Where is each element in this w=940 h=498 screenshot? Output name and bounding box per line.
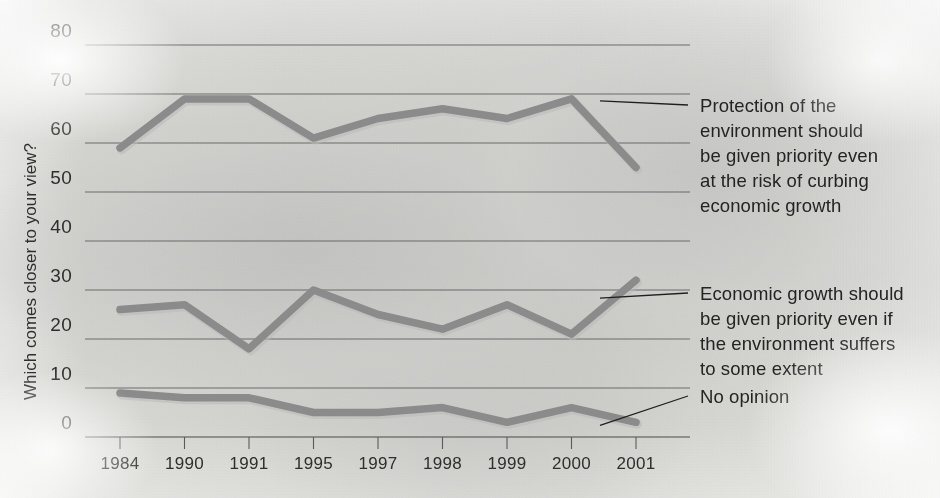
- y-tick-label-80: 80: [50, 20, 72, 41]
- series-group: [120, 99, 638, 424]
- y-tick-label-70: 70: [50, 69, 72, 90]
- x-tick-label-1999: 1999: [487, 454, 526, 473]
- y-tick-label-40: 40: [50, 216, 72, 237]
- annotation-environment-line-1: environment should: [700, 120, 863, 141]
- annotation-economy-line-0: Economic growth should: [700, 283, 904, 304]
- annotation-no-opinion-line-0: No opinion: [700, 386, 789, 407]
- annotation-environment-line-0: Protection of the: [700, 95, 836, 116]
- x-axis-group: 198419901991199519971998199920002001: [100, 437, 655, 473]
- line-chart: Which comes closer to your view? 0102030…: [0, 0, 940, 498]
- annotation-environment-line-3: at the risk of curbing: [700, 170, 869, 191]
- series-shadow-0: [122, 101, 638, 170]
- annotation-economy-line-1: be given priority even if: [700, 308, 893, 329]
- annotation-economy-line-2: the environment suffers: [700, 333, 895, 354]
- gridlines-group: 01020304050607080: [50, 20, 690, 437]
- x-tick-label-1990: 1990: [165, 454, 204, 473]
- y-tick-label-60: 60: [50, 118, 72, 139]
- x-tick-label-2000: 2000: [552, 454, 591, 473]
- y-axis-title: Which comes closer to your view?: [21, 143, 40, 400]
- leader-line-annotation-environment: [600, 101, 688, 105]
- x-tick-label-1998: 1998: [423, 454, 462, 473]
- y-tick-label-0: 0: [61, 412, 72, 433]
- y-tick-label-20: 20: [50, 314, 72, 335]
- annotations-group: Protection of theenvironment shouldbe gi…: [600, 95, 904, 425]
- annotation-environment-line-2: be given priority even: [700, 145, 878, 166]
- x-tick-label-2001: 2001: [616, 454, 655, 473]
- annotation-economy-line-3: to some extent: [700, 358, 823, 379]
- y-tick-label-30: 30: [50, 265, 72, 286]
- leader-line-annotation-no-opinion: [600, 396, 688, 425]
- annotation-environment-line-4: economic growth: [700, 195, 841, 216]
- y-tick-label-50: 50: [50, 167, 72, 188]
- y-axis-title-text: Which comes closer to your view?: [21, 143, 40, 400]
- x-tick-label-1991: 1991: [229, 454, 268, 473]
- x-tick-label-1997: 1997: [358, 454, 397, 473]
- x-tick-label-1995: 1995: [294, 454, 333, 473]
- x-tick-label-1984: 1984: [100, 454, 139, 473]
- y-tick-label-10: 10: [50, 363, 72, 384]
